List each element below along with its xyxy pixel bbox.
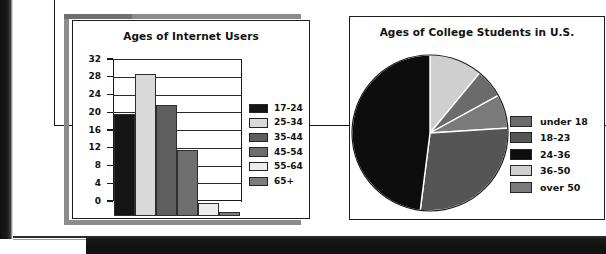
pie-legend-item: 24-36	[510, 146, 588, 163]
bar-legend-item: 25-34	[249, 116, 303, 131]
bar-chart-y-tick-mark	[107, 94, 113, 95]
bar-chart-y-tick-label: 8	[79, 161, 101, 170]
bar-legend-swatch	[249, 162, 268, 172]
pie-legend-item: 18-23	[510, 130, 588, 147]
bar-chart-bar	[198, 203, 219, 216]
pie-legend-item: over 50	[510, 179, 588, 196]
bar-chart-bar	[156, 105, 177, 216]
pie-legend-label: under 18	[540, 117, 588, 127]
bar-legend-swatch	[249, 133, 268, 143]
bar-chart-bar	[114, 114, 135, 216]
pie-legend-swatch	[510, 149, 532, 160]
bar-legend-item: 65+	[249, 174, 303, 189]
bar-chart-y-tick-mark	[107, 76, 113, 77]
pie-legend-swatch	[510, 182, 532, 193]
pie-legend-swatch	[510, 132, 532, 143]
bar-chart-legend: 17-2425-3435-4445-5455-6465+	[249, 101, 303, 189]
pie-chart-graphic	[345, 53, 515, 213]
bar-panel-shadow-cap	[64, 14, 132, 19]
bar-legend-swatch	[249, 118, 268, 128]
pie-legend-label: 24-36	[540, 150, 570, 160]
bar-legend-item: 35-44	[249, 130, 303, 145]
bar-legend-label: 55-64	[274, 162, 303, 171]
page-bottom-rule-secondary	[13, 239, 86, 240]
bar-legend-swatch	[249, 104, 268, 114]
bar-legend-item: 45-54	[249, 145, 303, 160]
bar-legend-item: 55-64	[249, 159, 303, 174]
bar-chart-y-tick-mark	[107, 200, 113, 201]
bar-legend-label: 45-54	[274, 148, 303, 157]
bar-chart-y-tick-label: 12	[79, 143, 101, 152]
bar-chart-y-tick-mark	[107, 183, 113, 184]
pie-chart-svg	[345, 53, 515, 213]
bar-legend-item: 17-24	[249, 101, 303, 116]
bar-chart-bars	[114, 74, 241, 216]
pie-chart-legend: under 1818-2324-3636-50over 50	[510, 113, 588, 196]
pie-slice	[352, 55, 430, 210]
bar-chart-gridline	[113, 59, 242, 60]
bar-legend-swatch	[249, 147, 268, 157]
pie-legend-label: 36-50	[540, 166, 570, 176]
bar-legend-swatch	[249, 177, 268, 187]
bar-chart-bar	[135, 74, 156, 216]
bar-chart-panel: Ages of Internet Users 048121620242832 1…	[72, 20, 310, 219]
pie-legend-label: 18-23	[540, 133, 570, 143]
pie-legend-label: over 50	[540, 183, 580, 193]
pie-legend-swatch	[510, 116, 532, 127]
bar-legend-label: 35-44	[274, 133, 303, 142]
bar-chart-y-tick-label: 20	[79, 108, 101, 117]
bar-chart-y-tick-label: 16	[79, 126, 101, 135]
bar-chart-y-tick-label: 28	[79, 72, 101, 81]
bar-legend-label: 17-24	[274, 104, 303, 113]
bar-chart-y-tick-mark	[107, 165, 113, 166]
pie-legend-swatch	[510, 165, 532, 176]
pie-chart-title: Ages of College Students in U.S.	[350, 26, 604, 38]
bar-chart-y-tick-mark	[107, 129, 113, 130]
bar-chart-y-tick-mark	[107, 112, 113, 113]
pie-legend-item: 36-50	[510, 163, 588, 180]
bar-legend-label: 65+	[274, 177, 294, 186]
bar-chart-y-tick-label: 24	[79, 90, 101, 99]
bar-chart-bar	[219, 212, 240, 216]
pie-chart-panel: Ages of College Students in U.S. under 1…	[349, 16, 605, 220]
bar-legend-label: 25-34	[274, 118, 303, 127]
pie-legend-item: under 18	[510, 113, 588, 130]
bar-chart-y-tick-mark	[107, 58, 113, 59]
bar-chart-y-tick-label: 4	[79, 179, 101, 188]
pie-slice	[420, 128, 508, 211]
bar-chart-y-tick-label: 0	[79, 197, 101, 206]
bar-chart-bar	[177, 150, 198, 217]
bar-chart-y-tick-mark	[107, 147, 113, 148]
bar-chart-y-tick-label: 32	[79, 55, 101, 64]
page-bottom-dark-band	[86, 238, 606, 254]
page-left-dark-edge	[0, 0, 13, 239]
